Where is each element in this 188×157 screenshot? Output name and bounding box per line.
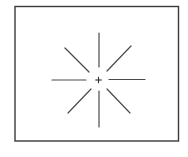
radial-line-upper-right xyxy=(107,46,131,71)
radial-line-diagram xyxy=(0,0,188,157)
radial-line-lower-right xyxy=(107,89,130,113)
radial-line-upper-left xyxy=(65,48,89,72)
stimulus-frame xyxy=(15,7,179,142)
radial-line-lower-left xyxy=(68,89,91,113)
fixation-cross-icon xyxy=(95,77,101,83)
